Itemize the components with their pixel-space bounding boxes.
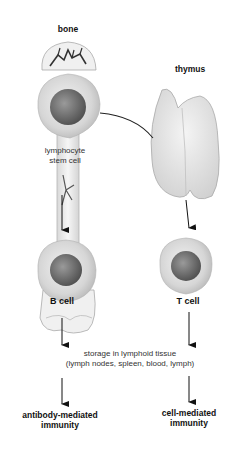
label-b-cell: B cell	[36, 296, 88, 306]
label-t-cell: T cell	[160, 296, 216, 306]
label-storage-line1: storage in lymphoid tissue	[30, 349, 230, 359]
label-storage: storage in lymphoid tissue (lymph nodes,…	[30, 349, 230, 369]
t-cell-illustration	[160, 238, 212, 294]
label-antibody-mediated-immunity: antibody-mediated immunity	[6, 410, 114, 430]
label-storage-line2: (lymph nodes, spleen, blood, lymph)	[30, 359, 230, 369]
label-cell-mediated-immunity: cell-mediated immunity	[146, 408, 232, 428]
arrow-thymus-to-t	[186, 200, 189, 228]
label-lymphocyte-stem-cell: lymphocyte stem cell	[30, 146, 100, 166]
label-antibody-line1: antibody-mediated	[6, 410, 114, 420]
label-cell-line2: immunity	[146, 418, 232, 428]
label-antibody-line2: immunity	[6, 420, 114, 430]
label-thymus: thymus	[160, 64, 220, 74]
thymus-illustration	[151, 89, 219, 199]
b-cell-illustration	[38, 240, 96, 302]
label-bone: bone	[40, 24, 96, 34]
stem-to-thymus-connector	[100, 113, 153, 138]
label-cell-line1: cell-mediated	[146, 408, 232, 418]
lymphocyte-stem-cell	[38, 74, 100, 138]
label-stem-line2: stem cell	[30, 156, 100, 166]
label-stem-line1: lymphocyte	[30, 146, 100, 156]
